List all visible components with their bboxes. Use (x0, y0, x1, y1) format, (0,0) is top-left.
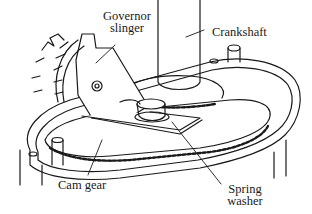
diagram-canvas: Governor slinger Crankshaft Cam gear Spr… (0, 0, 312, 214)
label-spring-washer: Spring washer (220, 183, 270, 207)
label-line: Crankshaft (212, 26, 267, 38)
label-cam-gear: Cam gear (58, 179, 106, 191)
label-governor-slinger: Governor slinger (96, 10, 158, 34)
label-line: Cam gear (58, 179, 106, 191)
label-crankshaft: Crankshaft (212, 26, 267, 38)
governor-slinger (76, 34, 202, 134)
label-line: slinger (96, 22, 158, 34)
label-line: washer (220, 195, 270, 207)
